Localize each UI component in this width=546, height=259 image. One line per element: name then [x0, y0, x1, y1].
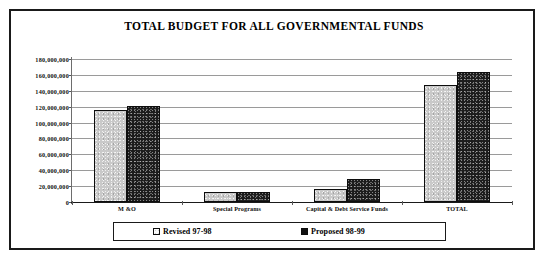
bar-proposed	[127, 106, 160, 202]
x-tick-label: Special Programs	[213, 205, 261, 212]
bars-layer	[72, 59, 512, 202]
y-tick-label: 120,000,000	[35, 103, 69, 110]
bar-proposed	[347, 179, 380, 202]
x-tick-mark	[292, 201, 293, 205]
legend-swatch-proposed-icon	[301, 228, 308, 235]
y-tick-label: 60,000,000	[39, 151, 69, 158]
bar-revised	[94, 110, 127, 202]
x-tick-mark	[512, 201, 513, 205]
bar-revised	[204, 192, 237, 202]
y-axis-tick-labels: 180,000,000160,000,000140,000,000120,000…	[15, 59, 69, 202]
bar-proposed	[237, 192, 270, 202]
x-axis-tick-labels: M &OSpecial ProgramsCapital & Debt Servi…	[72, 205, 512, 217]
bar-proposed	[457, 72, 490, 202]
legend-swatch-revised-icon	[153, 228, 160, 235]
y-tick-label: 100,000,000	[35, 119, 69, 126]
chart-frame: TOTAL BUDGET FOR ALL GOVERNMENTAL FUNDS …	[9, 9, 535, 250]
legend-entry-revised: Revised 97-98	[153, 227, 212, 236]
x-tick-mark	[72, 201, 73, 205]
plot-area	[72, 59, 512, 202]
y-tick-label: 140,000,000	[35, 87, 69, 94]
x-tick-label: Capital & Debt Service Funds	[306, 205, 388, 212]
y-tick-label: 40,000,000	[39, 167, 69, 174]
legend-label-proposed: Proposed 98-99	[311, 227, 365, 236]
y-tick-label: 160,000,000	[35, 71, 69, 78]
y-tick-label: 180,000,000	[35, 56, 69, 63]
chart-title: TOTAL BUDGET FOR ALL GOVERNMENTAL FUNDS	[11, 20, 537, 32]
legend-label-revised: Revised 97-98	[163, 227, 212, 236]
x-tick-label: M &O	[118, 205, 136, 212]
x-tick-label: TOTAL	[446, 205, 468, 212]
y-tick-label: 80,000,000	[39, 135, 69, 142]
x-tick-mark	[182, 201, 183, 205]
legend-entry-proposed: Proposed 98-99	[301, 227, 365, 236]
bar-revised	[314, 189, 347, 202]
chart-legend: Revised 97-98 Proposed 98-99	[113, 222, 446, 241]
y-tick-label: 20,000,000	[39, 183, 69, 190]
bar-revised	[424, 85, 457, 202]
x-tick-mark	[402, 201, 403, 205]
